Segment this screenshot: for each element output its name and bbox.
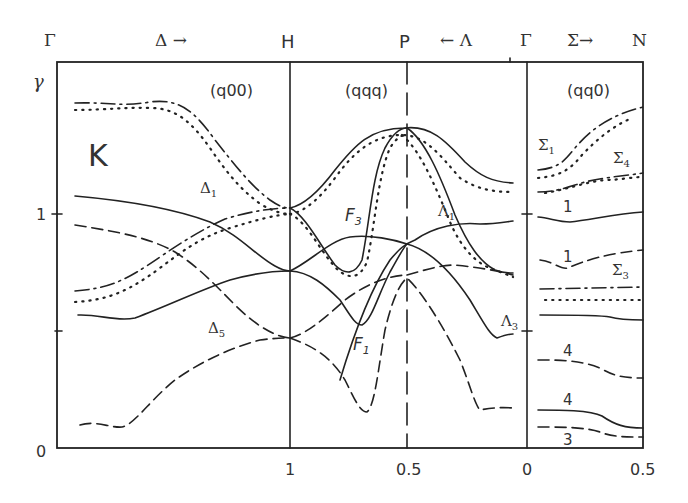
curve-sigma-solid-flat: [540, 315, 643, 320]
branch-label-3: 3: [563, 431, 573, 449]
label-H: H: [281, 31, 295, 52]
curve-F-upper-dotted: [290, 135, 513, 214]
xtick-label-0: 0: [522, 460, 532, 479]
branch-label-4a: 4: [563, 342, 573, 360]
curve-F-upper-solid: [290, 128, 513, 208]
label-P: P: [399, 31, 410, 52]
panel-label-qqq: (qqq): [345, 81, 388, 100]
ytick-label-1: 1: [36, 205, 46, 224]
curve-sigma-dashed-3: [538, 427, 643, 437]
ytick-label-0: 0: [36, 442, 46, 461]
y-axis-label: γ: [33, 71, 44, 92]
branch-label-sigma4: Σ4: [613, 149, 630, 169]
branch-label-F1: F1: [353, 334, 370, 357]
curve-delta-dashed-upper: [75, 225, 290, 338]
branch-label-lambda3: Λ3: [500, 312, 518, 332]
curve-delta1-solid: [75, 196, 290, 271]
panel-label-q00: (q00): [210, 81, 253, 100]
xtick-label-05-right: 0.5: [630, 460, 655, 479]
branch-label-1b: 1: [563, 248, 573, 266]
curve-sigma-dashed-1: [540, 250, 643, 268]
label-lambda-direction: ← Λ: [440, 30, 473, 50]
panel-label-qq0: (qq0): [567, 81, 610, 100]
curve-delta-rising-dotted: [75, 214, 290, 302]
label-gamma-mid: Γ: [520, 30, 532, 50]
branch-label-sigma1: Σ1: [538, 136, 555, 156]
branch-label-4b: 4: [563, 391, 573, 409]
branch-label-lambda1: Λ1: [437, 202, 455, 222]
gruneisen-dispersion-chart: Γ Δ → H P ← Λ Γ Σ→ N γ 1 0 1 0.5 0 0.5 (…: [0, 0, 688, 503]
curve-lambda-descending-dotted: [402, 135, 513, 277]
label-N: N: [632, 30, 647, 50]
branch-label-1a: 1: [563, 198, 573, 216]
curve-F1-dashed-valley: [290, 278, 513, 412]
label-gamma-start: Γ: [44, 30, 56, 50]
plot-frame: [57, 62, 643, 448]
branch-label-delta1: Δ1: [200, 179, 217, 199]
curve-delta-acoustic-dashed: [80, 338, 290, 427]
curve-sigma-solid-4: [538, 410, 643, 428]
branch-label-delta5: Δ5: [208, 319, 225, 339]
element-label-K: K: [88, 138, 109, 173]
xtick-label-05: 0.5: [396, 460, 421, 479]
label-delta-direction: Δ →: [155, 30, 187, 50]
curve-sigma-dashed-4: [538, 360, 643, 378]
label-sigma-direction: Σ→: [567, 30, 593, 50]
curve-sigma-solid-1: [538, 212, 643, 222]
branch-label-F3: F3: [345, 205, 362, 228]
xtick-label-1: 1: [285, 460, 295, 479]
branch-label-sigma3: Σ3: [612, 261, 629, 281]
curve-F-dashed-rising: [290, 275, 407, 338]
curve-sigma3-dashdot: [540, 287, 643, 289]
